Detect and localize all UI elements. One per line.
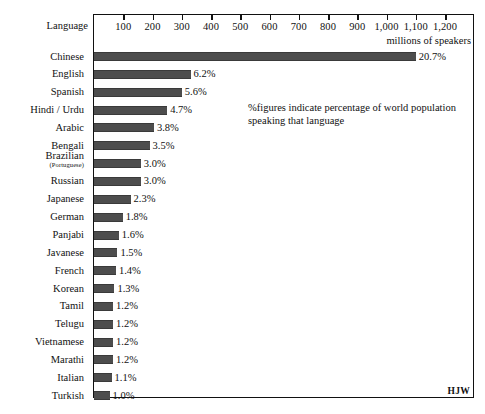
x-tick-400	[211, 15, 213, 20]
x-tick-900	[357, 15, 359, 20]
row-label-text: Telugu	[55, 318, 84, 329]
chart-annotation: %figures indicate percentage of world po…	[248, 101, 456, 127]
x-tick-100	[123, 15, 125, 20]
row-label-korean: Korean	[53, 284, 84, 295]
x-tick-300	[182, 15, 184, 20]
bar-tamil	[94, 302, 113, 311]
row-label-text: English	[52, 68, 84, 79]
bar-turkish	[94, 391, 110, 400]
bar-brazilian	[94, 159, 141, 168]
row-label-javanese: Javanese	[47, 248, 84, 259]
x-tick-label-1200: 1,200	[433, 21, 457, 32]
x-tick-500	[240, 15, 242, 20]
bar-spanish	[94, 88, 182, 97]
bar-value-label: 3.8%	[157, 123, 179, 132]
bar-value-label: 1.6%	[122, 230, 144, 239]
row-label-brazilian: Brazilian(Portuguese)	[46, 151, 84, 169]
bar-value-label: 5.6%	[185, 87, 207, 96]
bar-marathi	[94, 355, 113, 364]
row-label-german: German	[50, 212, 84, 223]
bar-arabic	[94, 123, 154, 132]
bar-bengali	[94, 141, 150, 150]
x-tick-1000	[387, 15, 389, 20]
row-label-arabic: Arabic	[55, 123, 84, 134]
row-label-vietnamese: Vietnamese	[35, 337, 84, 348]
annotation-line-2: speaking that language	[248, 114, 456, 127]
bar-value-label: 1.2%	[116, 337, 138, 346]
row-label-text: Turkish	[52, 390, 84, 401]
row-label-text: Javanese	[47, 247, 84, 258]
row-label-english: English	[52, 69, 84, 80]
row-label-text: Brazilian	[46, 150, 84, 161]
bar-hindi-urdu	[94, 106, 167, 115]
x-tick-600	[270, 15, 272, 20]
row-label-text: Chinese	[50, 51, 84, 62]
bar-value-label: 1.8%	[126, 212, 148, 221]
x-tick-label-100: 100	[115, 21, 131, 32]
row-label-italian: Italian	[57, 373, 84, 384]
bar-value-label: 1.2%	[116, 301, 138, 310]
x-tick-label-700: 700	[291, 21, 307, 32]
bar-telugu	[94, 320, 113, 329]
bar-javanese	[94, 248, 117, 257]
annotation-line-1: %figures indicate percentage of world po…	[248, 101, 456, 114]
row-label-text: Japanese	[47, 193, 84, 204]
x-tick-label-500: 500	[232, 21, 248, 32]
x-tick-1200	[445, 15, 447, 20]
row-label-text: Hindi / Urdu	[30, 104, 84, 115]
row-label-text: Arabic	[55, 122, 84, 133]
author-signature: HJW	[447, 386, 470, 396]
bar-value-label: 3.0%	[144, 159, 166, 168]
bar-french	[94, 266, 116, 275]
row-label-text: Panjabi	[53, 229, 85, 240]
row-label-text: Italian	[57, 372, 84, 383]
row-label-text: Korean	[53, 283, 84, 294]
row-label-text: French	[55, 265, 84, 276]
x-tick-1100	[416, 15, 418, 20]
x-axis-unit-label: millions of speakers	[386, 35, 471, 46]
row-label-japanese: Japanese	[47, 194, 84, 205]
bar-value-label: 2.3%	[134, 194, 156, 203]
bar-german	[94, 213, 123, 222]
row-label-panjabi: Panjabi	[53, 230, 85, 241]
bar-value-label: 4.7%	[170, 105, 192, 114]
bar-panjabi	[94, 231, 119, 240]
bar-korean	[94, 284, 114, 293]
bar-value-label: 3.0%	[144, 176, 166, 185]
row-label-french: French	[55, 266, 84, 277]
bar-value-label: 6.2%	[194, 69, 216, 78]
x-tick-label-600: 600	[261, 21, 277, 32]
x-tick-label-1100: 1,100	[404, 21, 428, 32]
x-tick-700	[299, 15, 301, 20]
bar-value-label: 1.2%	[116, 355, 138, 364]
row-label-telugu: Telugu	[55, 319, 84, 330]
x-tick-label-800: 800	[320, 21, 336, 32]
bar-value-label: 1.5%	[120, 248, 142, 257]
bar-italian	[94, 373, 112, 382]
bar-value-label: 1.1%	[115, 373, 137, 382]
row-label-text: Spanish	[51, 86, 84, 97]
row-label-turkish: Turkish	[52, 391, 84, 402]
bar-value-label: 1.2%	[116, 319, 138, 328]
row-label-hindi-urdu: Hindi / Urdu	[30, 105, 84, 116]
bar-value-label: 1.3%	[117, 284, 139, 293]
row-label-marathi: Marathi	[51, 355, 84, 366]
bar-vietnamese	[94, 338, 113, 347]
bar-english	[94, 70, 191, 79]
row-label-tamil: Tamil	[60, 301, 84, 312]
row-label-chinese: Chinese	[50, 52, 84, 63]
x-tick-200	[153, 15, 155, 20]
bar-value-label: 3.5%	[153, 141, 175, 150]
x-tick-label-200: 200	[144, 21, 160, 32]
x-tick-label-1000: 1,000	[374, 21, 398, 32]
chart-plot-area: 1002003004005006007008009001,0001,1001,2…	[93, 14, 474, 398]
row-label-subtext: (Portuguese)	[46, 161, 84, 168]
x-tick-label-400: 400	[203, 21, 219, 32]
row-label-spanish: Spanish	[51, 87, 84, 98]
row-label-text: Russian	[51, 175, 84, 186]
bar-chinese	[94, 52, 416, 61]
x-tick-label-300: 300	[174, 21, 190, 32]
x-tick-label-900: 900	[349, 21, 365, 32]
bar-russian	[94, 177, 141, 186]
row-label-russian: Russian	[51, 176, 84, 187]
